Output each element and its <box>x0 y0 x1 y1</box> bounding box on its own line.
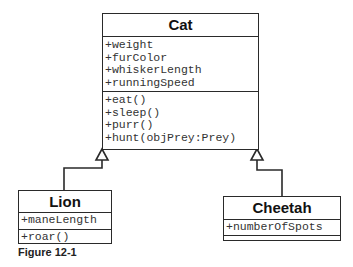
attribute: +maneLength <box>21 214 111 227</box>
figure-caption: Figure 12-1 <box>18 246 77 258</box>
class-lion-attributes: +maneLength <box>19 213 111 229</box>
method: +eat() <box>105 94 258 107</box>
class-cheetah-methods <box>224 235 340 240</box>
attribute: +runningSpeed <box>105 77 258 90</box>
class-cat-methods: +eat() +sleep() +purr() +hunt(objPrey:Pr… <box>103 91 258 144</box>
method: +roar() <box>21 231 111 244</box>
class-cat-attributes: +weight +furColor +whiskerLength +runnin… <box>103 37 258 91</box>
attribute: +whiskerLength <box>105 64 258 77</box>
class-cat[interactable]: Cat +weight +furColor +whiskerLength +ru… <box>102 13 259 150</box>
method: +purr() <box>105 119 258 132</box>
class-cheetah-name: Cheetah <box>224 197 340 220</box>
class-lion[interactable]: Lion +maneLength +roar() <box>18 190 112 244</box>
class-lion-methods: +roar() <box>19 229 111 244</box>
lion-generalization-arrow <box>64 149 108 190</box>
attribute: +numberOfSpots <box>226 221 340 234</box>
class-cat-name: Cat <box>103 14 258 37</box>
attribute: +weight <box>105 39 258 52</box>
class-cheetah[interactable]: Cheetah +numberOfSpots <box>223 196 341 241</box>
class-lion-name: Lion <box>19 191 111 213</box>
cheetah-generalization-arrow <box>251 149 282 196</box>
class-cheetah-attributes: +numberOfSpots <box>224 220 340 235</box>
method: +hunt(objPrey:Prey) <box>105 132 258 145</box>
